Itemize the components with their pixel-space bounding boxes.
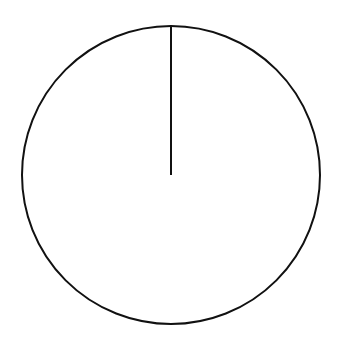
pie-chart xyxy=(0,0,338,342)
pie-slices xyxy=(22,26,320,324)
